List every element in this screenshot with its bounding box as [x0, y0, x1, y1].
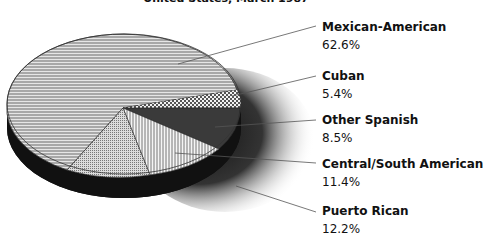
label-mexican-american: Mexican-American 62.6% — [322, 20, 446, 52]
label-puerto-rican: Puerto Rican 12.2% — [322, 204, 409, 236]
label-cuban: Cuban 5.4% — [322, 69, 365, 101]
label-central-south-american: Central/South American 11.4% — [322, 157, 483, 189]
label-other-spanish: Other Spanish 8.5% — [322, 113, 418, 145]
